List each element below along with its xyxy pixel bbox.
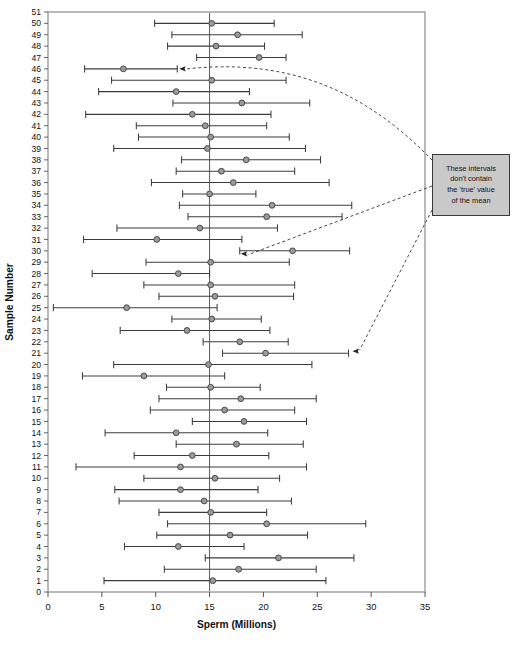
interval-row — [172, 315, 261, 322]
y-tick-label: 11 — [32, 462, 41, 472]
y-tick-label: 12 — [31, 451, 41, 461]
interval-row — [112, 77, 286, 84]
interval-row — [183, 190, 256, 197]
interval-row — [176, 168, 294, 175]
y-tick-label: 42 — [31, 109, 41, 119]
interval-row — [159, 293, 294, 300]
interval-row — [205, 554, 354, 561]
leader-line-sample-30 — [248, 186, 432, 255]
x-tick-label: 10 — [150, 601, 160, 612]
sample-mean-marker — [238, 396, 244, 402]
interval-row — [144, 475, 280, 482]
annotation-line-2: the 'true' value — [446, 185, 496, 196]
sample-mean-marker — [208, 259, 214, 265]
sample-mean-marker — [124, 305, 130, 311]
sample-mean-marker — [205, 146, 211, 152]
sample-mean-marker — [263, 350, 269, 356]
sample-mean-marker — [241, 419, 247, 425]
sample-mean-marker — [175, 544, 181, 550]
y-tick-label: 17 — [31, 394, 41, 404]
y-tick-label: 22 — [31, 337, 41, 347]
interval-row — [117, 224, 277, 231]
y-tick-label: 1 — [36, 576, 41, 586]
sample-mean-marker — [234, 441, 240, 447]
leader-line-sample-46 — [187, 67, 432, 160]
x-tick-label: 20 — [258, 601, 268, 612]
interval-row — [138, 133, 289, 140]
confidence-interval-figure: 0123456789101112131415161718192021222324… — [0, 0, 518, 654]
y-tick-label: 38 — [31, 155, 41, 165]
annotation-callout-box: These intervalsdon't containthe 'true' v… — [432, 154, 510, 216]
y-tick-label: 47 — [31, 53, 41, 63]
sample-mean-marker — [212, 293, 218, 299]
y-tick-label: 19 — [31, 371, 41, 381]
interval-row — [76, 463, 307, 470]
interval-row — [150, 406, 294, 413]
y-tick-label: 20 — [31, 360, 41, 370]
sample-mean-marker — [209, 77, 215, 83]
y-tick-label: 45 — [31, 75, 41, 85]
y-tick-label: 23 — [31, 326, 41, 336]
sample-mean-marker — [269, 202, 275, 208]
y-tick-label: 9 — [36, 485, 41, 495]
y-tick-label: 37 — [31, 166, 41, 176]
interval-row — [85, 65, 178, 72]
sample-mean-marker — [212, 475, 218, 481]
sample-mean-marker — [201, 498, 207, 504]
sample-mean-marker — [206, 362, 212, 368]
y-tick-label: 3 — [36, 553, 41, 563]
sample-mean-marker — [264, 521, 270, 527]
y-tick-label: 44 — [31, 87, 41, 97]
sample-mean-marker — [264, 214, 270, 220]
sample-mean-marker — [173, 89, 179, 95]
y-tick-label: 0 — [36, 587, 41, 597]
interval-row — [146, 259, 289, 266]
y-tick-label: 46 — [31, 64, 41, 74]
x-tick-label: 0 — [45, 601, 50, 612]
sample-mean-marker — [207, 191, 213, 197]
y-tick-label: 31 — [31, 235, 41, 245]
sample-mean-marker — [256, 55, 262, 61]
sample-mean-marker — [235, 32, 241, 38]
annotation-line-1: don't contain — [446, 174, 496, 185]
interval-row — [124, 543, 244, 550]
interval-row — [188, 213, 342, 220]
interval-row — [82, 372, 224, 379]
sample-mean-marker — [208, 384, 214, 390]
y-tick-label: 18 — [31, 382, 41, 392]
y-tick-label: 51 — [31, 7, 41, 17]
y-tick-label: 48 — [31, 41, 41, 51]
interval-row — [134, 452, 269, 459]
sample-mean-marker — [175, 271, 181, 277]
sample-mean-marker — [184, 328, 190, 334]
interval-row — [155, 20, 275, 27]
y-tick-label: 8 — [36, 496, 41, 506]
y-tick-label: 4 — [36, 542, 41, 552]
y-tick-label: 24 — [31, 314, 41, 324]
interval-row — [157, 532, 308, 539]
interval-row — [104, 577, 326, 584]
interval-row — [168, 520, 366, 527]
y-tick-label: 26 — [31, 291, 41, 301]
x-tick-label: 15 — [204, 601, 214, 612]
y-tick-label: 32 — [31, 223, 41, 233]
sample-mean-marker — [178, 464, 184, 470]
y-tick-label: 25 — [31, 303, 41, 313]
plot-frame — [48, 12, 425, 592]
y-tick-label: 34 — [31, 200, 41, 210]
y-tick-label: 10 — [31, 473, 41, 483]
interval-row — [105, 429, 268, 436]
sample-mean-marker — [208, 282, 214, 288]
y-tick-label: 14 — [31, 428, 41, 438]
leader-arrowhead-sample-30 — [241, 251, 247, 256]
sample-mean-marker — [209, 20, 215, 26]
x-tick-label: 30 — [366, 601, 376, 612]
y-tick-label: 30 — [31, 246, 41, 256]
y-tick-label: 40 — [31, 132, 41, 142]
sample-mean-marker — [173, 430, 179, 436]
y-tick-label: 49 — [31, 30, 41, 40]
sample-mean-marker — [189, 111, 195, 117]
sample-mean-marker — [230, 180, 236, 186]
y-tick-label: 21 — [31, 348, 41, 358]
sample-mean-marker — [121, 66, 127, 72]
